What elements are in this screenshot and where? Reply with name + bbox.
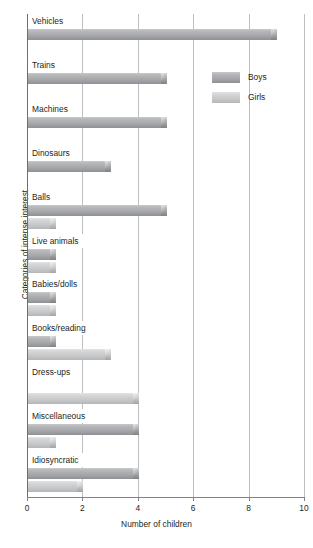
category-label: Babies/dolls	[29, 277, 81, 291]
bar-group: Live animals	[27, 234, 304, 278]
legend-swatch-boys-icon	[212, 72, 240, 83]
x-axis-title: Number of children	[0, 519, 313, 529]
bar-group: Books/reading	[27, 321, 304, 365]
x-tick-0	[27, 497, 28, 501]
bar-boys	[28, 205, 167, 216]
bar-group: Babies/dolls	[27, 277, 304, 321]
bar-boys	[28, 73, 167, 84]
bar-group: Balls	[27, 190, 304, 234]
bar-girls	[28, 393, 139, 404]
category-label: Vehicles	[29, 14, 67, 28]
legend-label-boys: Boys	[248, 72, 267, 82]
bar-boys	[28, 161, 111, 172]
bar-boys	[28, 336, 56, 347]
bar-boys	[28, 292, 56, 303]
category-label: Trains	[29, 58, 59, 72]
category-label: Live animals	[29, 234, 83, 248]
bar-girls	[28, 349, 111, 360]
x-tick-label-2: 2	[80, 503, 85, 513]
bar-girls	[28, 305, 56, 316]
legend-label-girls: Girls	[248, 92, 265, 102]
bar-boys	[28, 29, 277, 40]
legend-item-girls: Girls	[212, 90, 267, 104]
bar-group: Miscellaneous	[27, 409, 304, 453]
x-tick-label-0: 0	[25, 503, 30, 513]
bar-group: Dinosaurs	[27, 146, 304, 190]
gridline-10	[304, 14, 305, 497]
bar-boys	[28, 424, 139, 435]
bar-girls	[28, 437, 56, 448]
bar-chart: Categories of intense interest VehiclesT…	[0, 0, 313, 548]
x-tick-6	[193, 497, 194, 501]
x-tick-2	[82, 497, 83, 501]
bar-group: Idiosyncratic	[27, 453, 304, 497]
bar-girls	[28, 262, 56, 273]
x-tick-8	[249, 497, 250, 501]
legend-swatch-girls-icon	[212, 92, 240, 103]
bar-girls	[28, 218, 56, 229]
category-label: Idiosyncratic	[29, 453, 83, 467]
category-label: Books/reading	[29, 321, 90, 335]
x-axis-line	[27, 497, 305, 498]
bar-boys	[28, 249, 56, 260]
category-label: Dress-ups	[29, 365, 74, 379]
category-label: Miscellaneous	[29, 409, 89, 423]
x-tick-label-10: 10	[299, 503, 308, 513]
bar-group: Dress-ups	[27, 365, 304, 409]
category-label: Balls	[29, 190, 54, 204]
x-tick-label-8: 8	[246, 503, 251, 513]
bar-group: Vehicles	[27, 14, 304, 58]
legend-item-boys: Boys	[212, 70, 267, 84]
chart-legend: Boys Girls	[212, 70, 267, 110]
x-tick-label-6: 6	[191, 503, 196, 513]
x-tick-label-4: 4	[135, 503, 140, 513]
x-tick-10	[304, 497, 305, 501]
x-tick-4	[138, 497, 139, 501]
bar-boys	[28, 117, 167, 128]
category-label: Dinosaurs	[29, 146, 74, 160]
category-label: Machines	[29, 102, 72, 116]
bar-boys	[28, 468, 139, 479]
bar-girls	[28, 481, 83, 492]
